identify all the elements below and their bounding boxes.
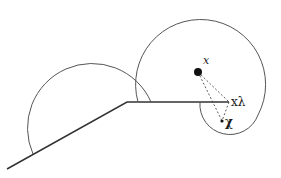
- diagram-canvas: x xλ χ: [0, 0, 281, 178]
- label-chi: χ: [225, 115, 233, 129]
- label-x-lambda: xλ: [231, 95, 246, 109]
- center-point-dot: [194, 68, 202, 76]
- query-point-dot: [220, 119, 223, 122]
- geometry-diagram: x xλ χ: [0, 0, 281, 178]
- boundary-polyline: [7, 102, 229, 169]
- left-arc: [28, 63, 151, 154]
- dashed-line-x-to-xlambda: [198, 72, 229, 102]
- label-x: x: [203, 54, 210, 67]
